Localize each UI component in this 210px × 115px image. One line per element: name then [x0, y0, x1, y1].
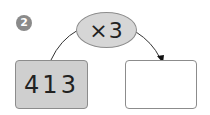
answer-box[interactable] [125, 60, 197, 109]
operator-label: ×3 [89, 18, 123, 43]
output-arrow-line [136, 32, 160, 58]
input-box: 413 [15, 60, 88, 109]
input-value: 413 [24, 71, 79, 99]
input-connector-line [51, 30, 78, 60]
operator-ellipse: ×3 [76, 12, 137, 48]
